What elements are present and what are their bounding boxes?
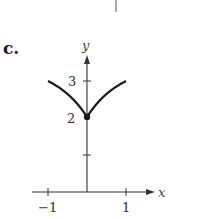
curve-right: [87, 81, 126, 117]
cusp-point: [84, 114, 90, 120]
x-axis-label: x: [158, 185, 166, 200]
x-tick-neg1: −1: [38, 200, 57, 215]
y-tick-2: 2: [67, 111, 75, 126]
y-tick-3: 3: [68, 74, 76, 89]
y-axis-label: y: [81, 38, 90, 53]
y-axis-arrow-icon: [84, 55, 90, 64]
x-tick-1: 1: [122, 200, 130, 215]
cusp-graph: x y −1 1 3 2: [0, 0, 224, 219]
x-axis-arrow-icon: [146, 189, 155, 195]
